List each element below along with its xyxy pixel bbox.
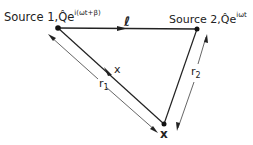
observer-label: x: [160, 128, 168, 140]
source1-exponent: i(ωt+β): [74, 9, 100, 17]
r2-subscript: 2: [196, 71, 201, 80]
source2-name: Source 2,: [169, 13, 221, 26]
source2-exponent: iωt: [236, 11, 247, 19]
path-marker-label: x: [114, 64, 121, 75]
distance1-label: r1: [99, 78, 109, 89]
r2-symbol: r: [191, 65, 196, 78]
path-source1-to-observer: [58, 28, 164, 124]
distance2-label: r2: [191, 66, 201, 77]
separation-label: ℓ: [124, 15, 130, 28]
r1-subscript: 1: [104, 83, 109, 92]
r1-symbol: r: [99, 77, 104, 90]
distance-r2-arrow: [176, 34, 208, 131]
source1-label: Source 1,Q̂ei(ωt+β): [4, 12, 101, 24]
source1-amplitude: Q̂e: [58, 10, 74, 24]
source2-label: Source 2,Q̂eiωt: [169, 14, 247, 25]
source2-amplitude: Q̂e: [221, 13, 236, 26]
source1-name: Source 1,: [4, 10, 58, 24]
source1-point: [55, 25, 61, 31]
source2-point: [195, 27, 200, 32]
observer-point: [162, 122, 167, 127]
